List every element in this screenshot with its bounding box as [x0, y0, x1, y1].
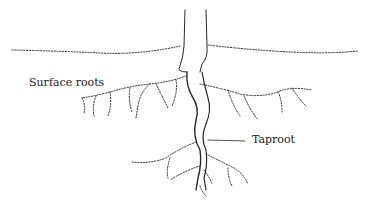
root-drawing — [0, 0, 371, 208]
surface-roots-label: Surface roots — [29, 76, 104, 89]
root-system-diagram: Surface roots Taproot — [0, 0, 371, 208]
deep-roots — [132, 142, 248, 196]
ground-line — [12, 45, 358, 53]
taproot-label: Taproot — [252, 133, 295, 146]
stem — [179, 10, 207, 72]
taproot — [187, 72, 245, 190]
surface-roots-right — [200, 84, 312, 120]
